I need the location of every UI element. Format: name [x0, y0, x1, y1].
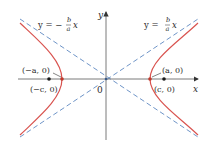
- hyperbola-diagram: y x 0 y = − b a x y = b a x (−a, 0) (a, …: [0, 0, 213, 150]
- left-vertex-point: [60, 77, 64, 81]
- asymptote-label-positive: y = b a x: [143, 16, 177, 33]
- right-vertex-point: [148, 77, 152, 81]
- svg-text:y = −: y = −: [37, 20, 62, 30]
- svg-text:b: b: [166, 16, 170, 24]
- origin-point: [105, 78, 108, 81]
- right-focus-point: [162, 77, 166, 81]
- svg-text:a: a: [166, 25, 170, 33]
- svg-text:b: b: [67, 16, 71, 24]
- asymptote-label-negative: y = − b a x: [37, 16, 78, 33]
- left-vertex-label: (−a, 0): [22, 66, 50, 75]
- svg-text:x: x: [73, 20, 78, 30]
- svg-text:y =: y =: [143, 20, 159, 30]
- origin-label: 0: [97, 85, 103, 95]
- x-axis-label: x: [193, 84, 198, 94]
- svg-text:a: a: [67, 25, 71, 33]
- left-focus-point: [47, 77, 51, 81]
- y-axis-label: y: [97, 10, 104, 20]
- left-focus-label: (−c, 0): [30, 85, 58, 94]
- left-vertex-leader: [53, 73, 61, 77]
- right-vertex-leader: [152, 73, 161, 77]
- right-vertex-label: (a, 0): [162, 66, 183, 75]
- svg-text:x: x: [172, 20, 177, 30]
- right-focus-label: (c, 0): [154, 85, 175, 94]
